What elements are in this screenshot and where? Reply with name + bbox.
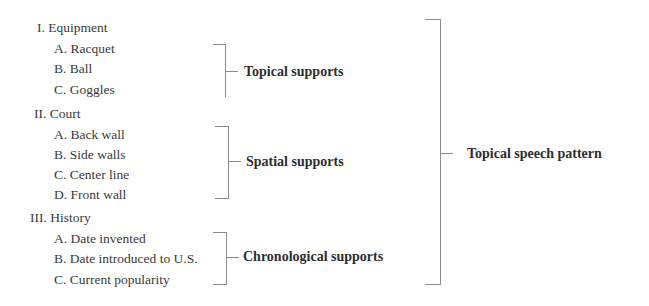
bracket-bottom-tick [213,284,226,285]
outline-item: B. Ball [54,61,92,77]
bracket-pointer [440,153,453,154]
bracket-top-tick [215,126,228,127]
section-heading-history: III. History [30,210,91,226]
bracket-bottom-tick [215,198,228,199]
outline-item: B. Side walls [54,147,126,163]
overall-pattern-label: Topical speech pattern [467,146,602,162]
bracket-top-tick [425,19,440,20]
outline-item: C. Current popularity [54,272,170,288]
support-label-spatial: Spatial supports [246,154,344,170]
outline-item: C. Center line [54,167,129,183]
outline-item: A. Back wall [54,127,125,143]
bracket-bottom-tick [425,284,440,285]
support-label-topical: Topical supports [244,64,343,80]
bracket-pointer [226,257,239,258]
bracket-spine [226,232,227,285]
bracket-pointer [225,71,238,72]
outline-item: A. Racquet [54,41,115,57]
outline-item: A. Date invented [54,231,146,247]
outline-item: D. Front wall [54,187,126,203]
bracket-spine [228,126,229,199]
outline-item: C. Goggles [54,82,115,98]
outline-item: B. Date introduced to U.S. [54,251,198,267]
bracket-pointer [228,161,241,162]
bracket-top-tick [213,232,226,233]
section-heading-equipment: I. Equipment [37,20,108,36]
support-label-chronological: Chronological supports [243,249,383,265]
section-heading-court: II. Court [34,106,81,122]
bracket-spine [440,19,441,285]
